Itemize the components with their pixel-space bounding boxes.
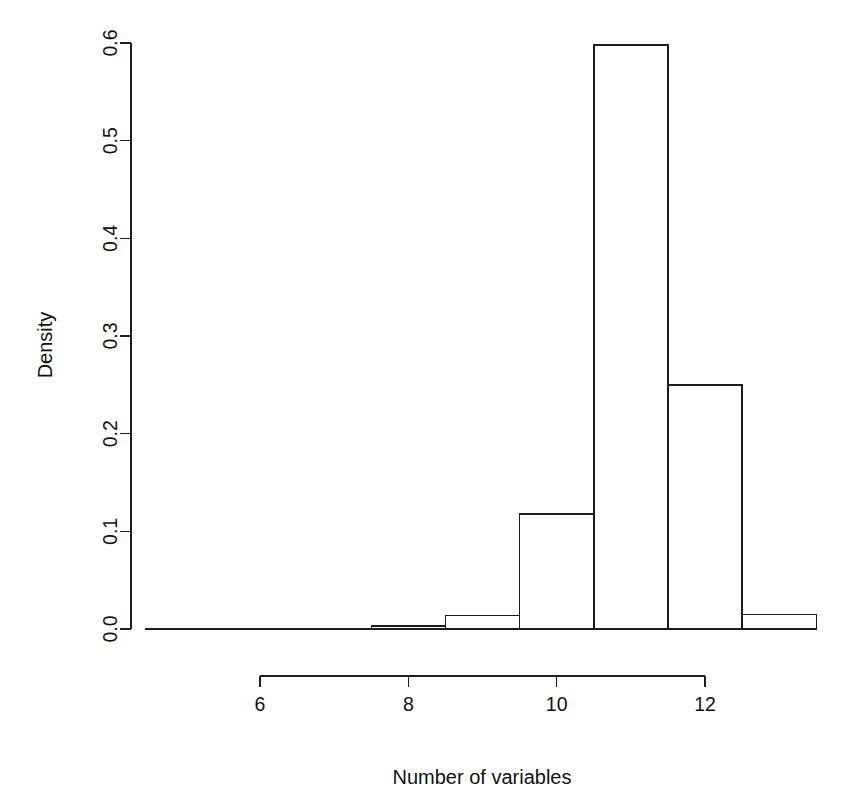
x-axis-tick-label: 10 [546,693,568,715]
histogram-bar [594,45,668,629]
histogram-bar [520,514,594,629]
y-axis: 0.00.10.20.30.40.50.6 [99,29,131,642]
histogram-plot: 0.00.10.20.30.40.50.6 681012 Density Num… [0,0,842,807]
x-axis-tick-label: 8 [403,693,414,715]
histogram-bars [145,45,816,629]
histogram-bar [668,385,742,629]
y-axis-tick-label: 0.0 [99,615,121,642]
y-axis-title: Density [34,312,56,379]
y-axis-tick-label: 0.3 [99,322,121,349]
x-axis: 681012 [255,676,716,715]
y-axis-tick-label: 0.5 [99,127,121,154]
histogram-bar [371,626,445,629]
y-axis-tick-label: 0.4 [99,225,121,252]
x-axis-tick-label: 12 [694,693,716,715]
histogram-bar [445,615,519,629]
plot-canvas: 0.00.10.20.30.40.50.6 681012 Density Num… [0,0,842,807]
x-axis-tick-label: 6 [255,693,266,715]
y-axis-tick-label: 0.2 [99,420,121,447]
y-axis-tick-label: 0.6 [99,29,121,56]
y-axis-tick-label: 0.1 [99,518,121,545]
x-axis-title: Number of variables [393,766,572,788]
histogram-bar [742,614,816,629]
